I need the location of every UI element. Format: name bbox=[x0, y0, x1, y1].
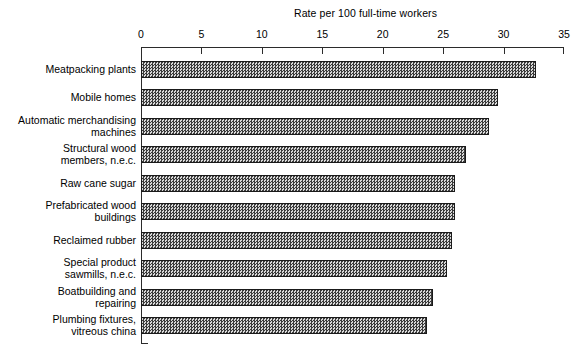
x-tick-label-20: 20 bbox=[377, 28, 389, 40]
category-label: Mobile homes bbox=[7, 91, 141, 103]
x-tick-label-0: 0 bbox=[138, 28, 144, 40]
bar-chart: Rate per 100 full-time workers 051015202… bbox=[0, 0, 575, 361]
category-label: Automatic merchandising machines bbox=[7, 114, 141, 138]
chart-title-text: Rate per 100 full-time workers bbox=[294, 7, 437, 19]
category-label: Structural wood members, n.e.c. bbox=[7, 142, 141, 166]
x-tick-label-15: 15 bbox=[316, 28, 328, 40]
bar bbox=[141, 260, 447, 277]
x-tick-mark-20 bbox=[383, 47, 384, 54]
bar bbox=[141, 203, 455, 220]
chart-title: Rate per 100 full-time workers bbox=[0, 7, 575, 19]
x-tick-label-35: 35 bbox=[558, 28, 570, 40]
bar-row bbox=[141, 89, 564, 106]
bar-row bbox=[141, 289, 564, 306]
bar-row bbox=[141, 146, 564, 163]
x-tick-mark-30 bbox=[504, 47, 505, 54]
bar-row bbox=[141, 118, 564, 135]
x-tick-mark-25 bbox=[443, 47, 444, 54]
category-label: Meatpacking plants bbox=[7, 63, 141, 75]
x-axis-tick-labels: 05101520253035 bbox=[141, 28, 564, 42]
bar bbox=[141, 175, 455, 192]
bar bbox=[141, 232, 452, 249]
bar bbox=[141, 289, 433, 306]
bar-row bbox=[141, 317, 564, 334]
x-axis-line bbox=[141, 47, 564, 48]
bar bbox=[141, 89, 498, 106]
category-label: Raw cane sugar bbox=[7, 177, 141, 189]
bar-row bbox=[141, 61, 564, 78]
bar bbox=[141, 61, 536, 78]
x-tick-label-25: 25 bbox=[437, 28, 449, 40]
category-label: Reclaimed rubber bbox=[7, 234, 141, 246]
x-tick-label-10: 10 bbox=[256, 28, 268, 40]
x-tick-mark-5 bbox=[201, 47, 202, 54]
category-label: Boatbuilding and repairing bbox=[7, 285, 141, 309]
category-label: Special product sawmills, n.e.c. bbox=[7, 256, 141, 280]
bar-row bbox=[141, 203, 564, 220]
category-label: Plumbing fixtures, vitreous china bbox=[7, 313, 141, 337]
x-tick-label-5: 5 bbox=[199, 28, 205, 40]
bar bbox=[141, 146, 466, 163]
bar bbox=[141, 118, 489, 135]
y-axis-foot-tick bbox=[141, 343, 148, 344]
x-tick-mark-10 bbox=[262, 47, 263, 54]
bar-row bbox=[141, 232, 564, 249]
x-axis-right-cap bbox=[563, 47, 564, 54]
x-tick-label-30: 30 bbox=[498, 28, 510, 40]
bar-row bbox=[141, 260, 564, 277]
bar bbox=[141, 317, 427, 334]
category-label: Prefabricated wood buildings bbox=[7, 199, 141, 223]
x-tick-mark-15 bbox=[322, 47, 323, 54]
plot-area bbox=[141, 55, 564, 340]
bar-row bbox=[141, 175, 564, 192]
category-labels: Meatpacking plantsMobile homesAutomatic … bbox=[0, 55, 141, 340]
